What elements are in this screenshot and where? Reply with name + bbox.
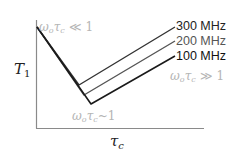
series-line-100mhz [37, 27, 175, 104]
series-label-100mhz: 100 MHz [176, 49, 226, 63]
series-label-200mhz: 200 MHz [176, 34, 226, 48]
annotation-t1-minimum: ωoτc~1 [72, 109, 115, 124]
series-line-200mhz [37, 27, 175, 95]
annotation-short-tau: ωoτc ≪ 1 [39, 20, 93, 35]
t1-vs-correlation-time-chart: 300 MHz 200 MHz 100 MHz ωoτc ≪ 1 ωoτc ≫ … [0, 0, 243, 158]
annotation-long-tau: ωoτc ≫ 1 [170, 69, 224, 84]
x-axis-label: τc [110, 132, 124, 151]
y-axis-label: T1 [14, 60, 30, 79]
series-label-300mhz: 300 MHz [176, 19, 226, 33]
